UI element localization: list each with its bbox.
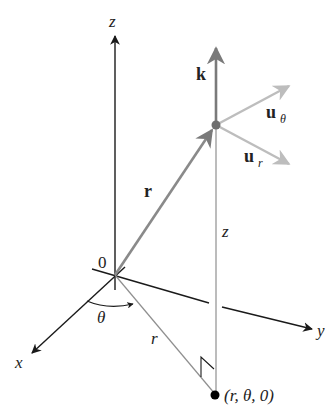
cylindrical-coordinates-diagram: z x y 0 θ r z xyxy=(0,0,336,417)
u-theta-subscript: θ xyxy=(280,112,286,126)
z-axis: z xyxy=(108,12,116,290)
height-label: z xyxy=(221,222,229,241)
height-segment: z xyxy=(216,125,229,394)
y-axis: y xyxy=(92,269,325,340)
x-axis: x xyxy=(14,267,125,372)
base-point-label: (r, θ, 0) xyxy=(224,386,274,405)
u-r-label: u xyxy=(244,146,254,166)
y-axis-label: y xyxy=(315,321,325,340)
k-vector: k xyxy=(196,48,216,125)
theta-angle: θ xyxy=(87,301,133,327)
u-r-vector: u r xyxy=(216,125,289,170)
theta-label: θ xyxy=(97,308,105,327)
k-vector-label: k xyxy=(196,64,206,84)
position-vector-r: r xyxy=(115,130,212,275)
base-point: (r, θ, 0) xyxy=(211,386,275,405)
x-axis-label: x xyxy=(14,353,23,372)
u-r-subscript: r xyxy=(258,156,263,170)
point-p xyxy=(212,121,221,130)
right-angle-marker xyxy=(201,357,214,377)
origin-label: 0 xyxy=(98,253,107,272)
radial-projection: r xyxy=(115,275,215,394)
radial-projection-label: r xyxy=(151,329,158,348)
u-theta-vector: u θ xyxy=(216,86,289,126)
z-axis-label: z xyxy=(108,12,116,31)
position-vector-label: r xyxy=(144,181,152,201)
u-theta-label: u xyxy=(266,102,276,122)
